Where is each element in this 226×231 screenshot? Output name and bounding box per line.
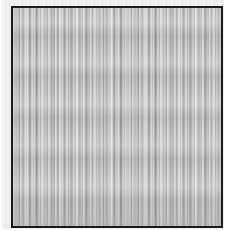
texture-frame [11,6,223,228]
texture-shading [13,8,221,226]
texture-bottom-shadow [13,198,221,226]
